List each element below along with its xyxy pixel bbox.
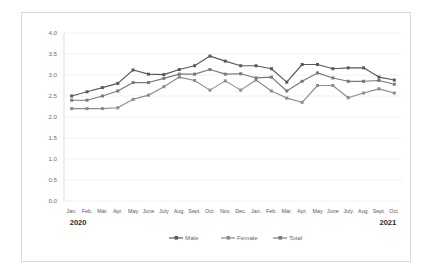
data-point-total <box>377 79 380 82</box>
x-axis-tick-label: Jan. <box>67 208 77 214</box>
x-axis-year-label: 2020 <box>70 218 87 227</box>
y-axis-tick-label: 2.0 <box>48 113 57 120</box>
chart-card: 0.00.51.01.52.02.53.03.54.0Jan.Feb.Mar.A… <box>21 12 411 262</box>
x-axis-tick-label: June <box>327 208 339 214</box>
data-point-total <box>193 73 196 76</box>
legend-marker-swatch <box>227 236 231 240</box>
x-axis-tick-label: Feb. <box>82 208 93 214</box>
data-point-male <box>147 73 150 76</box>
x-axis-tick-label: Sept. <box>188 208 201 214</box>
data-point-female <box>285 97 288 100</box>
chart-plot-area: 0.00.51.01.52.02.53.03.54.0Jan.Feb.Mar.A… <box>22 13 410 261</box>
x-axis-tick-label: Sept. <box>373 208 386 214</box>
data-point-male <box>70 95 73 98</box>
legend-marker-swatch <box>279 236 283 240</box>
data-point-total <box>316 71 319 74</box>
line-chart: 0.00.51.01.52.02.53.03.54.0Jan.Feb.Mar.A… <box>22 13 412 263</box>
data-point-female <box>362 92 365 95</box>
y-axis-tick-label: 1.0 <box>48 155 57 162</box>
data-point-total <box>393 83 396 86</box>
data-point-male <box>393 79 396 82</box>
data-point-female <box>70 107 73 110</box>
data-point-total <box>86 99 89 102</box>
data-point-total <box>116 89 119 92</box>
x-axis-tick-label: Aug. <box>358 208 369 214</box>
data-point-female <box>347 96 350 99</box>
data-point-total <box>347 80 350 83</box>
data-point-male <box>316 63 319 66</box>
data-point-male <box>193 64 196 67</box>
x-axis-tick-label: July <box>159 208 169 214</box>
x-axis-tick-label: Jan. <box>251 208 261 214</box>
data-point-total <box>132 81 135 84</box>
data-point-male <box>255 64 258 67</box>
x-axis-tick-label: Dec. <box>235 208 246 214</box>
data-point-male <box>86 90 89 93</box>
x-axis-tick-label: May <box>312 208 322 214</box>
data-point-female <box>86 107 89 110</box>
data-point-female <box>393 92 396 95</box>
data-point-female <box>301 101 304 104</box>
data-point-total <box>224 73 227 76</box>
data-point-total <box>101 95 104 98</box>
data-point-male <box>285 81 288 84</box>
x-axis-tick-label: Nov. <box>220 208 231 214</box>
data-point-male <box>178 68 181 71</box>
x-axis-tick-label: Mar. <box>282 208 292 214</box>
legend-label-male: Male <box>185 234 199 241</box>
legend-marker-swatch <box>175 236 179 240</box>
data-point-total <box>301 80 304 83</box>
x-axis-tick-label: Feb. <box>266 208 277 214</box>
data-point-female <box>331 84 334 87</box>
x-axis-tick-label: Mar. <box>97 208 107 214</box>
data-point-total <box>285 89 288 92</box>
data-point-female <box>132 98 135 101</box>
data-point-total <box>331 76 334 79</box>
data-point-female <box>316 84 319 87</box>
data-point-male <box>362 66 365 69</box>
data-point-male <box>208 55 211 58</box>
x-axis-tick-label: Oct. <box>389 208 399 214</box>
data-point-total <box>147 81 150 84</box>
y-axis-tick-label: 0.0 <box>48 197 57 204</box>
data-point-female <box>116 106 119 109</box>
data-point-male <box>116 82 119 85</box>
data-point-male <box>224 60 227 63</box>
y-axis-tick-label: 0.5 <box>48 176 57 183</box>
x-axis-tick-label: June <box>143 208 155 214</box>
data-point-male <box>270 67 273 70</box>
data-point-female <box>239 89 242 92</box>
data-point-female <box>162 85 165 88</box>
data-point-male <box>377 76 380 79</box>
data-point-male <box>162 73 165 76</box>
data-point-total <box>270 76 273 79</box>
data-point-female <box>377 87 380 90</box>
x-axis-tick-label: July <box>343 208 353 214</box>
data-point-female <box>193 79 196 82</box>
y-axis-tick-label: 3.5 <box>48 50 57 57</box>
y-axis-tick-label: 4.0 <box>48 29 57 36</box>
data-point-female <box>208 89 211 92</box>
data-point-female <box>270 89 273 92</box>
data-point-total <box>162 77 165 80</box>
data-point-total <box>239 72 242 75</box>
data-point-total <box>255 76 258 79</box>
data-point-total <box>208 68 211 71</box>
data-point-female <box>224 79 227 82</box>
legend-label-female: Female <box>237 234 258 241</box>
data-point-female <box>101 107 104 110</box>
x-axis-year-label: 2021 <box>379 218 397 227</box>
x-axis-tick-label: May <box>128 208 138 214</box>
data-point-female <box>147 94 150 97</box>
data-point-male <box>132 68 135 71</box>
data-point-male <box>301 63 304 66</box>
y-axis-tick-label: 2.5 <box>48 92 57 99</box>
x-axis-tick-label: Aug. <box>174 208 185 214</box>
x-axis-tick-label: Apr. <box>113 208 123 214</box>
y-axis-tick-label: 1.5 <box>48 134 57 141</box>
x-axis-tick-label: Oct. <box>205 208 215 214</box>
x-axis-tick-label: Apr. <box>297 208 307 214</box>
data-point-female <box>178 76 181 79</box>
data-point-male <box>101 86 104 89</box>
data-point-male <box>331 67 334 70</box>
